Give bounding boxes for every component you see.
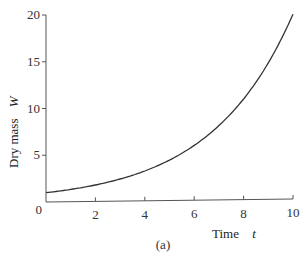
x-tick-label: 4 [142, 207, 149, 222]
data-line [46, 14, 293, 193]
x-tick-label: 8 [240, 206, 247, 221]
x-axis-label: Time t [212, 226, 256, 241]
x-axis-variable: t [252, 226, 256, 241]
y-tick-label: 20 [27, 7, 40, 22]
x-tick-label: 2 [92, 207, 99, 222]
x-tick-label: 10 [287, 205, 300, 220]
y-axis-variable: W [6, 95, 21, 107]
y-axis-label: Dry mass W [6, 95, 21, 168]
y-tick-label: 15 [27, 54, 40, 69]
y-tick-label: 5 [34, 147, 41, 162]
growth-chart: 05101520246810 Dry mass W Time t (a) [0, 0, 306, 256]
x-axis-title: Time [212, 226, 239, 241]
y-tick-label: 10 [27, 101, 40, 116]
axes [42, 15, 293, 202]
y-tick-label: 0 [36, 202, 43, 217]
x-axis-line [46, 199, 293, 202]
y-axis-title: Dry mass [6, 119, 21, 168]
x-tick-label: 6 [191, 206, 198, 221]
figure-caption: (a) [156, 237, 170, 252]
